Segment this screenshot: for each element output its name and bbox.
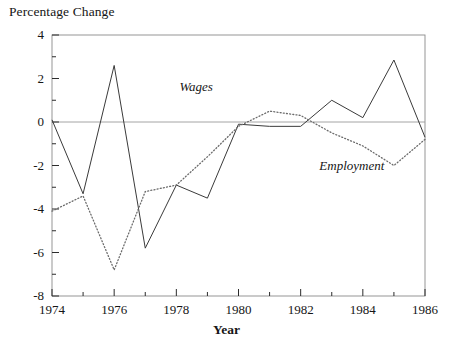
series-annotation-wages: Wages [179, 79, 212, 95]
series-line-wages [52, 60, 425, 248]
x-axis-title: Year [0, 322, 453, 338]
y-tick-label: -2 [14, 158, 44, 174]
x-tick-label: 1976 [84, 302, 144, 318]
y-tick-label: 0 [14, 114, 44, 130]
series-annotation-employment: Employment [319, 158, 384, 174]
y-tick-label: -4 [14, 201, 44, 217]
x-tick-label: 1980 [209, 302, 269, 318]
plot-area [0, 0, 453, 350]
x-tick-label: 1984 [333, 302, 393, 318]
x-tick-label: 1982 [271, 302, 331, 318]
y-tick-label: -6 [14, 245, 44, 261]
y-tick-label: 2 [14, 71, 44, 87]
series-line-employment [52, 111, 425, 270]
percentage-change-line-chart: Percentage Change 420-2-4-6-8 1974197619… [0, 0, 453, 350]
x-tick-label: 1986 [395, 302, 453, 318]
y-tick-label: 4 [14, 27, 44, 43]
x-tick-label: 1974 [22, 302, 82, 318]
x-tick-label: 1978 [146, 302, 206, 318]
